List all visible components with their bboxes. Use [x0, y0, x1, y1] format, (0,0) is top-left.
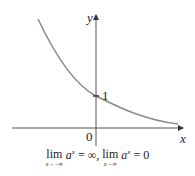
- limit-caption: lim x→−∞ ax = ∞, lim x→∞ ax = 0: [0, 148, 195, 167]
- limit-1: lim x→−∞: [46, 148, 63, 167]
- limit-2: lim x→∞: [102, 148, 118, 167]
- limit-2-expression: ax = 0: [121, 148, 149, 163]
- lim-word: lim: [102, 147, 118, 161]
- lim-word: lim: [46, 147, 62, 161]
- y-axis-label: y: [87, 11, 93, 24]
- lim-subscript: x→∞: [102, 161, 118, 167]
- limit-1-expression: ax = ∞,: [66, 148, 99, 163]
- rhs: = 0: [130, 148, 149, 162]
- x-axis-label: x: [180, 132, 186, 145]
- y-intercept-label: 1: [102, 89, 109, 102]
- rhs: = ∞,: [75, 148, 99, 162]
- exponential-curve: [38, 19, 178, 124]
- lim-subscript: x→−∞: [46, 161, 63, 167]
- origin-label: 0: [86, 130, 93, 143]
